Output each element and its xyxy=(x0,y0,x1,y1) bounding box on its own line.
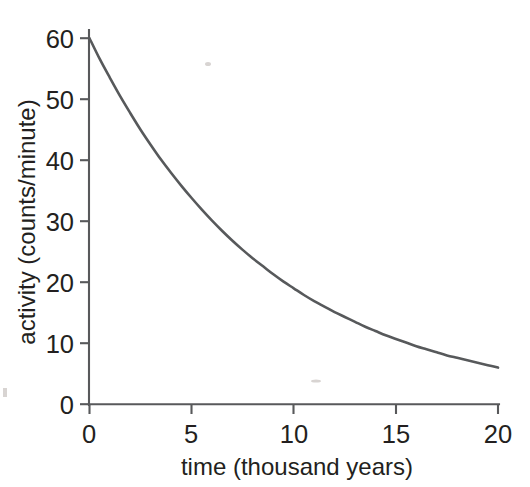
x-tick-label-20: 20 xyxy=(484,420,512,448)
scan-speck-left xyxy=(3,388,7,397)
y-tick-label-30: 30 xyxy=(46,208,74,236)
chart-background xyxy=(0,0,530,487)
y-axis-title: activity (counts/minute) xyxy=(13,99,40,344)
x-tick-label-5: 5 xyxy=(184,420,198,448)
scan-speck-top xyxy=(205,62,211,66)
scan-speck-bottom xyxy=(311,379,321,382)
y-tick-label-20: 20 xyxy=(46,269,74,297)
x-axis-title: time (thousand years) xyxy=(181,453,413,480)
x-tick-label-15: 15 xyxy=(382,420,410,448)
y-tick-label-60: 60 xyxy=(46,25,74,53)
x-tick-label-10: 10 xyxy=(280,420,308,448)
y-tick-label-10: 10 xyxy=(46,330,74,358)
x-tick-label-0: 0 xyxy=(82,420,96,448)
y-tick-label-0: 0 xyxy=(60,391,74,419)
y-tick-label-40: 40 xyxy=(46,147,74,175)
y-tick-label-50: 50 xyxy=(46,86,74,114)
decay-curve-chart: 60 50 40 30 20 10 0 0 5 10 15 20 time (t… xyxy=(0,0,530,487)
